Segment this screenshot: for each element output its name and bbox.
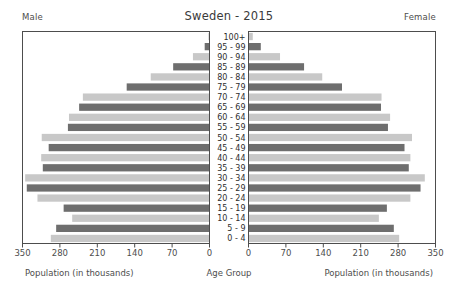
male-bar <box>68 124 210 131</box>
age-group-label: 95 - 99 <box>212 42 246 51</box>
female-bar <box>249 205 387 212</box>
male-bar <box>151 73 210 80</box>
male-bar <box>127 83 210 90</box>
female-axis-title: Population (in thousands) <box>324 268 433 278</box>
male-bar <box>72 215 209 222</box>
female-bar <box>249 114 391 121</box>
female-bar <box>249 215 379 222</box>
male-tick-label: 280 <box>52 248 68 258</box>
female-bar <box>249 144 405 151</box>
age-group-label: 85 - 89 <box>212 62 246 71</box>
female-bar <box>249 164 409 171</box>
female-bar <box>249 235 400 242</box>
female-tick-label: 350 <box>427 248 443 258</box>
male-tick-label: 210 <box>89 248 105 258</box>
female-tick-label: 210 <box>353 248 369 258</box>
male-bar <box>173 63 209 70</box>
age-group-label: 60 - 64 <box>212 113 246 122</box>
male-tick-label: 0 <box>207 248 212 258</box>
male-bar <box>51 235 210 242</box>
female-bar <box>249 194 411 201</box>
female-bar <box>249 73 323 80</box>
age-group-label: 50 - 54 <box>212 133 246 142</box>
age-group-label: 5 - 9 <box>212 224 246 233</box>
female-bar <box>249 174 425 181</box>
female-bar <box>249 104 382 111</box>
female-bar <box>249 83 343 90</box>
age-group-label: 100+ <box>212 32 246 41</box>
female-bar <box>249 134 412 141</box>
population-pyramid-chart: Male Female Sweden - 2015 35028021014070… <box>0 0 458 297</box>
male-bar <box>41 154 209 161</box>
age-group-label: 80 - 84 <box>212 72 246 81</box>
male-bar <box>79 104 209 111</box>
male-bar <box>83 93 210 100</box>
male-bar <box>64 205 210 212</box>
age-group-label: 25 - 29 <box>212 183 246 192</box>
male-bar <box>193 53 210 60</box>
male-bar <box>25 174 209 181</box>
female-bar <box>249 43 261 50</box>
male-bar <box>49 144 210 151</box>
female-bar <box>249 93 382 100</box>
age-group-label: 10 - 14 <box>212 214 246 223</box>
age-group-label: 0 - 4 <box>212 234 246 243</box>
male-bar <box>69 114 210 121</box>
age-group-label: 45 - 49 <box>212 143 246 152</box>
female-bar <box>249 225 394 232</box>
age-group-label: 30 - 34 <box>212 173 246 182</box>
age-group-label: 35 - 39 <box>212 163 246 172</box>
age-group-label: 90 - 94 <box>212 52 246 61</box>
male-bar <box>37 194 209 201</box>
male-bar <box>27 184 210 191</box>
male-tick-label: 140 <box>127 248 143 258</box>
female-bar <box>249 124 388 131</box>
male-tick-label: 350 <box>14 248 30 258</box>
female-bar <box>249 53 281 60</box>
age-group-label: 55 - 59 <box>212 123 246 132</box>
male-tick-label: 70 <box>167 248 178 258</box>
age-group-label: 75 - 79 <box>212 83 246 92</box>
age-group-label: 20 - 24 <box>212 194 246 203</box>
female-bar <box>249 184 421 191</box>
age-group-label: 15 - 19 <box>212 204 246 213</box>
female-tick-label: 280 <box>390 248 406 258</box>
female-tick-label: 0 <box>246 248 251 258</box>
male-bar <box>56 225 209 232</box>
female-tick-label: 140 <box>315 248 331 258</box>
female-bar <box>249 154 411 161</box>
age-group-label: 65 - 69 <box>212 103 246 112</box>
female-tick-label: 70 <box>280 248 291 258</box>
female-bar <box>249 33 253 40</box>
age-group-label: 40 - 44 <box>212 153 246 162</box>
male-bar <box>42 134 210 141</box>
female-bar <box>249 63 305 70</box>
male-bar <box>205 43 210 50</box>
male-bar <box>43 164 210 171</box>
age-group-label: 70 - 74 <box>212 93 246 102</box>
